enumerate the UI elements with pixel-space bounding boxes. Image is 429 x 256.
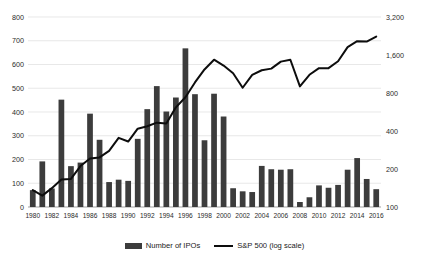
- bar: [326, 188, 332, 207]
- bar: [364, 179, 370, 207]
- bar: [230, 188, 236, 207]
- bar: [307, 197, 313, 207]
- chart-plot-area: 01002003004005006007008001002004008001,6…: [0, 0, 429, 256]
- line-swatch-icon: [214, 245, 233, 247]
- x-axis-tick-label: 1998: [197, 212, 212, 219]
- bar: [106, 182, 112, 207]
- x-axis-tick-label: 2002: [235, 212, 250, 219]
- bar: [240, 191, 246, 207]
- ipo-sp500-chart: 01002003004005006007008001002004008001,6…: [0, 0, 429, 256]
- bar: [97, 140, 103, 207]
- y-axis-left-tick-label: 700: [12, 36, 24, 45]
- bar: [144, 109, 150, 207]
- x-axis-tick-label: 1980: [25, 212, 40, 219]
- x-axis-tick-label: 1982: [45, 212, 60, 219]
- y-axis-right-tick-label: 100: [386, 203, 398, 212]
- bar-swatch-icon: [125, 243, 142, 249]
- y-axis-right-tick-label: 3,200: [386, 13, 404, 22]
- y-axis-left-tick-label: 800: [12, 13, 24, 22]
- x-axis-tick-label: 1984: [64, 212, 79, 219]
- y-axis-left-tick-label: 400: [12, 108, 24, 117]
- legend-item-bars: Number of IPOs: [125, 241, 200, 250]
- x-axis-tick-label: 2016: [369, 212, 384, 219]
- x-axis-tick-label: 1994: [159, 212, 174, 219]
- bar: [278, 170, 284, 207]
- x-axis-tick-label: 1990: [121, 212, 136, 219]
- x-axis-tick-label: 2008: [293, 212, 308, 219]
- bar: [49, 188, 55, 207]
- x-axis-tick-label: 2006: [273, 212, 288, 219]
- bar: [39, 161, 45, 207]
- y-axis-right-tick-label: 400: [386, 127, 398, 136]
- bar: [154, 86, 160, 207]
- bar: [163, 112, 169, 207]
- bar: [192, 94, 198, 207]
- bar: [116, 180, 122, 207]
- x-axis-tick-label: 1996: [178, 212, 193, 219]
- bar: [345, 170, 351, 207]
- bar: [183, 48, 189, 207]
- bar: [335, 185, 341, 207]
- legend-label-bars: Number of IPOs: [146, 241, 200, 250]
- y-axis-right-tick-label: 1,600: [386, 51, 404, 60]
- legend-item-line: S&P 500 (log scale): [214, 241, 304, 250]
- bar: [259, 166, 265, 207]
- x-axis-tick-label: 2010: [312, 212, 327, 219]
- bar: [249, 192, 255, 207]
- y-axis-right-tick-label: 200: [386, 165, 398, 174]
- bar: [288, 169, 294, 207]
- y-axis-right-tick-label: 800: [386, 89, 398, 98]
- y-axis-left-tick-label: 600: [12, 60, 24, 69]
- bar: [354, 158, 360, 207]
- bar: [268, 169, 274, 207]
- bar: [173, 98, 179, 207]
- bar: [59, 100, 65, 207]
- bar: [125, 181, 131, 207]
- bar: [68, 166, 74, 207]
- bar: [373, 189, 379, 207]
- x-axis-tick-label: 2012: [331, 212, 346, 219]
- x-axis-tick-label: 2004: [254, 212, 269, 219]
- x-axis-tick-label: 2000: [216, 212, 231, 219]
- x-axis-tick-label: 1986: [83, 212, 98, 219]
- legend-label-line: S&P 500 (log scale): [237, 241, 304, 250]
- chart-legend: Number of IPOs S&P 500 (log scale): [0, 241, 429, 250]
- bar: [30, 190, 36, 207]
- y-axis-left-tick-label: 500: [12, 84, 24, 93]
- bar: [221, 117, 227, 207]
- bar: [316, 185, 322, 207]
- y-axis-left-tick-label: 100: [12, 179, 24, 188]
- bar: [135, 139, 141, 207]
- y-axis-left-tick-label: 300: [12, 131, 24, 140]
- y-axis-left-tick-label: 200: [12, 155, 24, 164]
- x-axis-tick-label: 1992: [140, 212, 155, 219]
- y-axis-left-tick-label: 0: [20, 203, 24, 212]
- bar: [297, 202, 303, 207]
- x-axis-tick-label: 2014: [350, 212, 365, 219]
- bar: [211, 94, 217, 207]
- x-axis-tick-label: 1988: [102, 212, 117, 219]
- bar: [202, 140, 208, 207]
